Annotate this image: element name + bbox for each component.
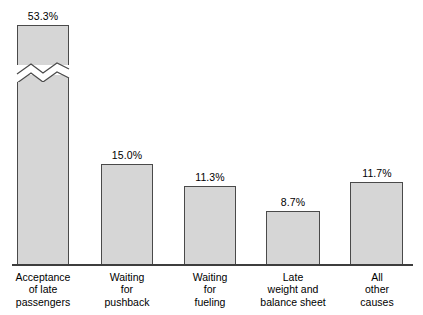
category-label-line: balance sheet bbox=[252, 296, 334, 308]
value-label-all-other-causes: 11.7% bbox=[350, 167, 404, 179]
category-label-line: Waiting bbox=[172, 271, 248, 283]
category-label-waiting-for-pushback: Waiting for pushback bbox=[89, 271, 165, 308]
category-label-line: weight and bbox=[252, 283, 334, 295]
bar-segment-bottom bbox=[17, 75, 69, 265]
value-label-acceptance-of-late-passengers: 53.3% bbox=[17, 10, 69, 22]
value-label-waiting-for-pushback: 15.0% bbox=[101, 149, 153, 161]
category-label-line: for bbox=[89, 283, 165, 295]
bar-segment-top bbox=[17, 25, 69, 65]
category-label-waiting-for-fueling: Waiting for fueling bbox=[172, 271, 248, 308]
category-label-line: causes bbox=[338, 296, 416, 308]
category-label-acceptance-of-late-passengers: Acceptance of late passengers bbox=[5, 271, 81, 308]
category-label-line: of late bbox=[5, 283, 81, 295]
category-label-line: Acceptance bbox=[5, 271, 81, 283]
bar-late-weight-and-balance-sheet bbox=[266, 211, 320, 265]
category-label-all-other-causes: All other causes bbox=[338, 271, 416, 308]
bar-chart: 53.3% 15.0% 11.3% 8.7% 11.7% Acceptance … bbox=[0, 0, 423, 315]
category-label-line: other bbox=[338, 283, 416, 295]
category-label-line: All bbox=[338, 271, 416, 283]
bar-all-other-causes bbox=[350, 182, 403, 265]
x-axis bbox=[12, 264, 413, 266]
category-label-line: fueling bbox=[172, 296, 248, 308]
value-label-late-weight-and-balance-sheet: 8.7% bbox=[266, 196, 320, 208]
category-label-line: passengers bbox=[5, 296, 81, 308]
category-label-line: pushback bbox=[89, 296, 165, 308]
category-label-line: for bbox=[172, 283, 248, 295]
bar-waiting-for-fueling bbox=[184, 186, 236, 265]
bar-waiting-for-pushback bbox=[101, 164, 153, 265]
category-label-line: Late bbox=[252, 271, 334, 283]
value-label-waiting-for-fueling: 11.3% bbox=[184, 171, 236, 183]
category-label-line: Waiting bbox=[89, 271, 165, 283]
category-label-late-weight-and-balance-sheet: Late weight and balance sheet bbox=[252, 271, 334, 308]
